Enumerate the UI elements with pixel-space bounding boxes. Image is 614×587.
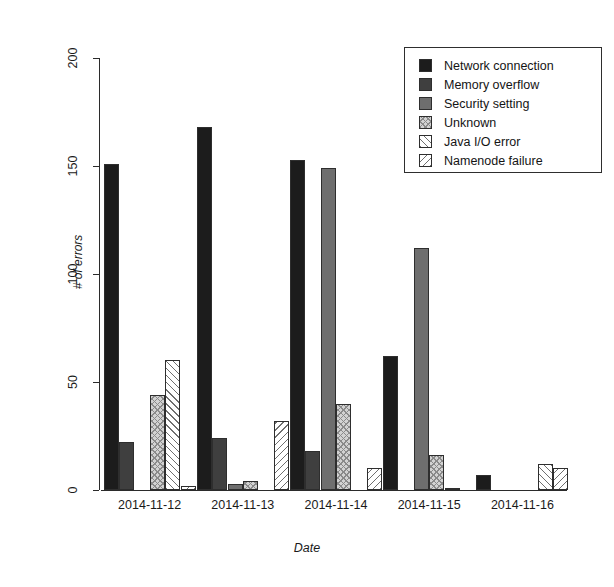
legend-label: Security setting xyxy=(444,97,529,111)
bar-2014-11-12-namenode-failure xyxy=(181,486,196,490)
bar-group-2014-11-12 xyxy=(104,58,196,490)
y-tick-label-50: 50 xyxy=(58,375,88,389)
bar-2014-11-14-security-setting xyxy=(321,168,336,490)
legend-label: Java I/O error xyxy=(444,135,520,149)
legend-item-network-connection[interactable]: Network connection xyxy=(405,56,601,75)
legend-swatch-icon xyxy=(419,97,432,110)
bar-2014-11-12-memory-overflow xyxy=(119,442,134,490)
legend-item-memory-overflow[interactable]: Memory overflow xyxy=(405,75,601,94)
bar-2014-11-15-network-connection xyxy=(383,356,398,490)
y-tick-label-150: 150 xyxy=(58,159,88,173)
legend-item-unknown[interactable]: Unknown xyxy=(405,113,601,132)
bar-2014-11-13-security-setting xyxy=(228,484,243,490)
bar-2014-11-13-unknown xyxy=(243,481,258,490)
bar-chart: 050100150200 # of errors Date 2014-11-12… xyxy=(0,0,614,587)
bar-2014-11-14-namenode-failure xyxy=(367,468,382,490)
legend-swatch-icon xyxy=(419,59,432,72)
bar-2014-11-12-java-i-o-error xyxy=(165,360,180,490)
legend-swatch-icon xyxy=(419,116,432,129)
legend-label: Network connection xyxy=(444,59,554,73)
y-tick-label-200: 200 xyxy=(58,51,88,65)
bar-2014-11-12-network-connection xyxy=(104,164,119,490)
x-axis-line xyxy=(101,490,567,491)
bar-2014-11-14-memory-overflow xyxy=(305,451,320,490)
legend-label: Memory overflow xyxy=(444,78,539,92)
chart-legend: Network connectionMemory overflowSecurit… xyxy=(404,47,602,173)
legend-item-java-i-o-error[interactable]: Java I/O error xyxy=(405,132,601,151)
bar-2014-11-14-network-connection xyxy=(290,160,305,490)
bar-2014-11-13-memory-overflow xyxy=(212,438,227,490)
x-tick-label-2014-11-16: 2014-11-16 xyxy=(462,498,582,512)
legend-swatch-icon xyxy=(419,154,432,167)
x-axis-title: Date xyxy=(0,541,614,555)
bar-group-2014-11-14 xyxy=(290,58,382,490)
legend-swatch-icon xyxy=(419,135,432,148)
y-tick-label-0: 0 xyxy=(58,483,88,497)
bar-2014-11-12-unknown xyxy=(150,395,165,490)
bar-2014-11-15-security-setting xyxy=(414,248,429,490)
bar-2014-11-14-unknown xyxy=(336,404,351,490)
legend-label: Namenode failure xyxy=(444,154,543,168)
legend-label: Unknown xyxy=(444,116,496,130)
bar-2014-11-16-network-connection xyxy=(476,475,491,490)
y-axis-title: # of errors xyxy=(71,202,85,322)
y-tick-150 xyxy=(93,166,99,167)
legend-item-namenode-failure[interactable]: Namenode failure xyxy=(405,151,601,170)
bar-2014-11-16-java-i-o-error xyxy=(538,464,553,490)
bar-2014-11-13-network-connection xyxy=(197,127,212,490)
y-tick-200 xyxy=(93,58,99,59)
bar-2014-11-15-java-i-o-error xyxy=(445,488,460,490)
y-tick-100 xyxy=(93,274,99,275)
legend-item-security-setting[interactable]: Security setting xyxy=(405,94,601,113)
y-axis-line xyxy=(99,58,100,490)
legend-swatch-icon xyxy=(419,78,432,91)
bar-2014-11-15-unknown xyxy=(429,455,444,490)
bar-2014-11-16-namenode-failure xyxy=(553,468,568,490)
bar-group-2014-11-13 xyxy=(197,58,289,490)
y-tick-50 xyxy=(93,382,99,383)
bar-2014-11-13-namenode-failure xyxy=(274,421,289,490)
y-tick-0 xyxy=(93,490,99,491)
